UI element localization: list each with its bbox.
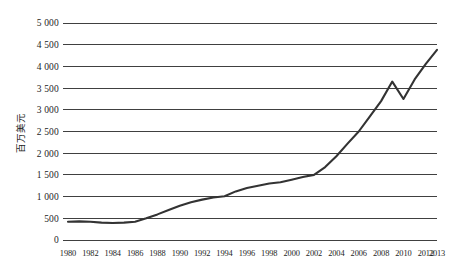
y-axis-tick-label: 3 000 xyxy=(37,105,59,115)
y-axis-tick-label: 3 500 xyxy=(37,84,59,94)
y-axis-tick-labels: 05001 0001 5002 0002 5003 0003 5004 0004… xyxy=(37,18,59,245)
x-axis-tick-label: 2013 xyxy=(429,249,445,258)
y-axis-tick-label: 500 xyxy=(44,214,59,224)
x-axis-tick-label: 1990 xyxy=(172,249,188,258)
x-axis-tick-label: 2004 xyxy=(328,249,345,258)
x-axis-tick-label: 1980 xyxy=(60,249,76,258)
x-axis-tick-label: 1984 xyxy=(105,249,122,258)
y-axis-tick-label: 0 xyxy=(54,235,59,245)
x-axis-tick-label: 2002 xyxy=(306,249,322,258)
y-axis-tick-label: 2 500 xyxy=(37,127,59,137)
y-axis-tick-label: 4 500 xyxy=(37,40,59,50)
y-axis-tick-label: 1 000 xyxy=(37,192,59,202)
y-axis-tick-label: 2 000 xyxy=(37,149,59,159)
y-axis-tick-label: 1 500 xyxy=(37,170,59,180)
y-axis-tick-label: 4 000 xyxy=(37,62,59,72)
x-axis-tick-label: 1982 xyxy=(82,249,98,258)
x-axis-tick-label: 2008 xyxy=(373,249,389,258)
line-chart: 05001 0001 5002 0002 5003 0003 5004 0004… xyxy=(0,0,451,277)
y-axis-title: 百万美元 xyxy=(15,113,26,153)
y-axis-tick-label: 5 000 xyxy=(37,18,59,28)
x-axis-tick-label: 1998 xyxy=(261,249,277,258)
x-axis-tick-labels: 1980198219841986198819901992199419961998… xyxy=(60,249,445,258)
x-axis-tick-label: 1996 xyxy=(239,249,255,258)
x-axis-tick-label: 1986 xyxy=(127,249,143,258)
x-axis-tick-label: 2006 xyxy=(351,249,367,258)
y-axis-tickmarks xyxy=(63,23,68,240)
x-axis-tick-label: 1994 xyxy=(216,249,233,258)
x-axis-tick-label: 2010 xyxy=(395,249,411,258)
x-axis-tick-label: 1992 xyxy=(194,249,210,258)
x-axis-tick-label: 2000 xyxy=(283,249,299,258)
gridlines xyxy=(68,23,437,240)
chart-container: 05001 0001 5002 0002 5003 0003 5004 0004… xyxy=(0,0,451,277)
x-axis-tick-label: 1988 xyxy=(149,249,165,258)
data-series-line xyxy=(68,50,437,223)
